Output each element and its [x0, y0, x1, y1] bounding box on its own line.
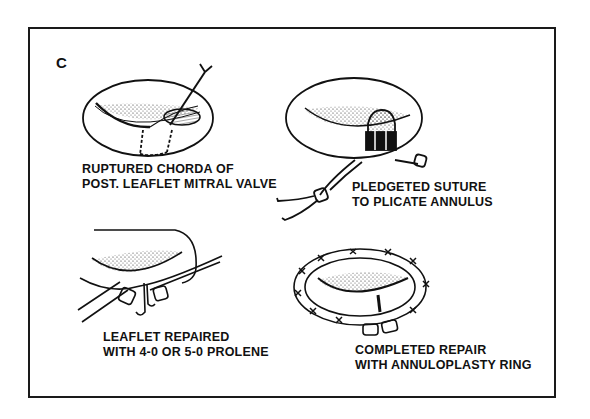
- caption-line: PLEDGETED SUTURE: [352, 180, 493, 195]
- leaflet-repaired-illustration: [78, 230, 222, 322]
- completed-repair-illustration: [294, 249, 429, 335]
- caption-line: RUPTURED CHORDA OF: [82, 162, 277, 177]
- caption-line: WITH ANNULOPLASTY RING: [355, 358, 532, 373]
- caption-line: LEAFLET REPAIRED: [103, 330, 269, 345]
- caption-line: TO PLICATE ANNULUS: [352, 195, 493, 210]
- caption-completed-repair: COMPLETED REPAIR WITH ANNULOPLASTY RING: [355, 343, 532, 373]
- caption-leaflet-repaired: LEAFLET REPAIRED WITH 4-0 OR 5-0 PROLENE: [103, 330, 269, 360]
- caption-ruptured-chorda: RUPTURED CHORDA OF POST. LEAFLET MITRAL …: [82, 162, 277, 192]
- caption-line: COMPLETED REPAIR: [355, 343, 532, 358]
- caption-line: WITH 4-0 OR 5-0 PROLENE: [103, 345, 269, 360]
- ruptured-chorda-illustration: [83, 64, 213, 156]
- caption-line: POST. LEAFLET MITRAL VALVE: [82, 177, 277, 192]
- caption-pledgeted-suture: PLEDGETED SUTURE TO PLICATE ANNULUS: [352, 180, 493, 210]
